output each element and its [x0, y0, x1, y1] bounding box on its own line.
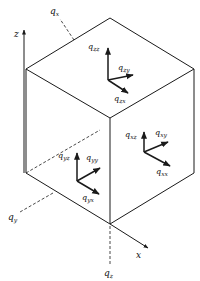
q-yx-label: qyx [82, 193, 95, 204]
qy-label: qy [8, 212, 18, 224]
q-xx-label: qxx [156, 167, 169, 177]
qz-label: qz [104, 268, 114, 279]
q-xz-label: qxz [125, 130, 138, 140]
qy-normal-line [20, 193, 53, 212]
q-zx-label: qzx [114, 94, 126, 104]
qx-normal-line [60, 19, 74, 40]
q-yz-label: qyz [58, 151, 71, 162]
x-axis [110, 224, 148, 248]
cube-outline [26, 18, 194, 224]
q-yy-label: qyy [86, 153, 99, 164]
q-zy-label: qzy [118, 63, 130, 74]
q-zz-label: qzz [88, 42, 100, 52]
q-xy-label: qxy [155, 128, 168, 139]
z-axis-label: z [13, 29, 19, 39]
stress-cube-diagram: z x qx qy qz qzz qzy qzx qxz qxy qxx qyz… [0, 0, 200, 281]
qx-label: qx [50, 6, 60, 17]
x-axis-label: x [136, 250, 141, 260]
